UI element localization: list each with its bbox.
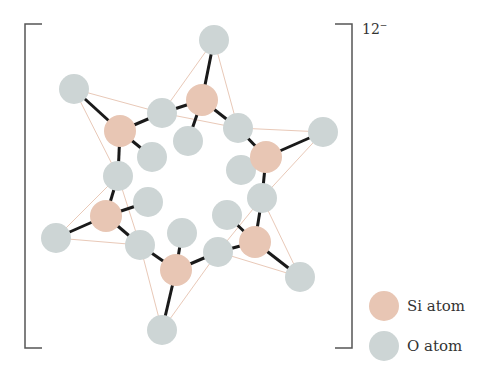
oxygen-atom — [137, 142, 167, 172]
silicon-atom — [186, 84, 218, 116]
oxygen-atom — [125, 230, 155, 260]
legend-label-o: O atom — [407, 337, 462, 355]
si-atom-swatch-icon — [369, 291, 399, 321]
oxygen-atom — [199, 25, 229, 55]
right-bracket — [335, 24, 352, 348]
legend-item-o: O atom — [369, 331, 462, 361]
silicon-atom — [90, 200, 122, 232]
silicon-atom — [160, 254, 192, 286]
oxygen-atom — [147, 98, 177, 128]
oxygen-atom — [167, 218, 197, 248]
oxygen-atom — [41, 223, 71, 253]
ion-charge-label: 12− — [362, 20, 387, 37]
oxygen-atom — [133, 187, 163, 217]
si-o-bonds — [56, 40, 323, 330]
oxygen-atom — [147, 315, 177, 345]
left-bracket — [25, 24, 42, 348]
oxygen-atom — [247, 183, 277, 213]
silicon-atom — [104, 115, 136, 147]
oxygen-atom — [103, 161, 133, 191]
oxygen-atom — [285, 262, 315, 292]
silicon-atom — [250, 141, 282, 173]
legend-item-si: Si atom — [369, 291, 465, 321]
oxygen-atom — [59, 74, 89, 104]
oxygen-atom — [203, 237, 233, 267]
legend-label-si: Si atom — [407, 297, 465, 315]
atoms — [41, 25, 338, 345]
silicon-atom — [239, 226, 271, 258]
tetrahedron-edges — [56, 40, 323, 330]
oxygen-atom — [223, 113, 253, 143]
oxygen-atom — [173, 126, 203, 156]
oxygen-atom — [212, 200, 242, 230]
oxygen-atom — [308, 117, 338, 147]
o-atom-swatch-icon — [369, 331, 399, 361]
